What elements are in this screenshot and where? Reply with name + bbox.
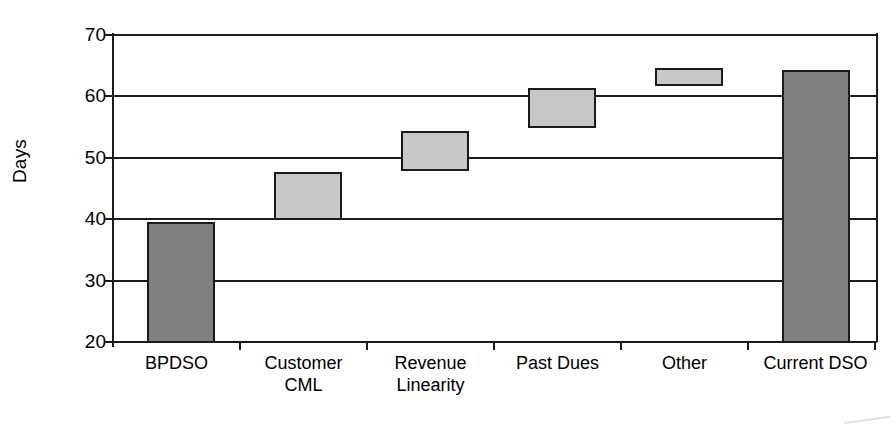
bar-other — [655, 68, 723, 86]
x-tick-mark-1 — [239, 341, 241, 350]
x-label-customer-cml: Customer CML — [240, 352, 367, 396]
waterfall-chart: Days 70 60 50 40 30 20 — [0, 0, 895, 425]
plot-right-border — [876, 33, 878, 342]
gridline-50 — [113, 157, 877, 159]
x-label-current-dso: Current DSO — [748, 352, 883, 374]
gridline-40 — [113, 218, 877, 220]
y-tick-mark-70 — [105, 34, 114, 36]
y-axis-line — [112, 33, 114, 347]
plot-area — [113, 34, 877, 341]
y-axis-tick-labels: 70 60 50 40 30 20 — [20, 0, 106, 425]
bar-past-dues — [528, 88, 596, 128]
bar-current-dso — [782, 70, 850, 343]
x-tick-mark-6 — [874, 341, 876, 350]
y-tick-mark-40 — [105, 218, 114, 220]
x-tick-mark-5 — [747, 341, 749, 350]
gridline-20-baseline — [113, 341, 877, 343]
x-tick-mark-2 — [366, 341, 368, 350]
gridline-60 — [113, 95, 877, 97]
y-tick-label-60: 60 — [62, 86, 106, 105]
y-tick-mark-30 — [105, 280, 114, 282]
y-tick-label-50: 50 — [62, 148, 106, 167]
bar-customer-cml — [274, 172, 342, 220]
x-tick-mark-4 — [620, 341, 622, 350]
y-tick-label-70: 70 — [62, 25, 106, 44]
page-scan-artifact — [842, 400, 890, 424]
bar-revenue-linearity — [401, 131, 469, 171]
x-label-bpdso: BPDSO — [113, 352, 240, 374]
y-tick-label-20: 20 — [62, 332, 106, 351]
gridline-70 — [113, 34, 877, 36]
x-label-other: Other — [621, 352, 748, 374]
x-tick-mark-3 — [493, 341, 495, 350]
gridline-30 — [113, 280, 877, 282]
x-label-revenue-linearity: Revenue Linearity — [367, 352, 494, 396]
y-tick-mark-60 — [105, 95, 114, 97]
bar-bpdso — [147, 222, 215, 343]
y-tick-label-30: 30 — [62, 271, 106, 290]
y-tick-label-40: 40 — [62, 209, 106, 228]
y-tick-mark-50 — [105, 157, 114, 159]
x-label-past-dues: Past Dues — [494, 352, 621, 374]
y-tick-mark-20 — [105, 341, 114, 343]
